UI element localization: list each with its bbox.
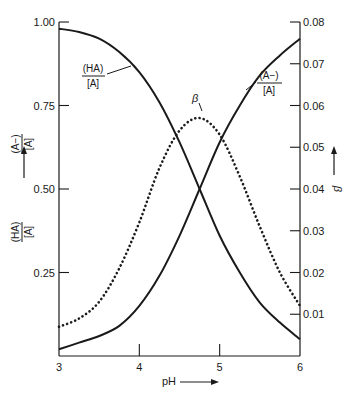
right-tick-label: 0.01 xyxy=(303,308,324,320)
right-tick-label: 0.02 xyxy=(303,267,324,279)
beta-curve xyxy=(59,118,300,327)
right-tick-label: 0.03 xyxy=(303,225,324,237)
right-axis-label: β xyxy=(331,146,344,193)
buffer-chart: 34561.000.750.500.250.080.070.060.050.04… xyxy=(0,0,348,398)
left-tick-label: 1.00 xyxy=(34,16,55,28)
svg-text:β: β xyxy=(332,185,344,193)
svg-text:(HA): (HA) xyxy=(83,63,104,74)
right-tick-label: 0.07 xyxy=(303,58,324,70)
svg-text:(HA): (HA) xyxy=(10,222,21,243)
tick-labels: 34561.000.750.500.250.080.070.060.050.04… xyxy=(34,16,325,373)
a-annotation: (A−) [A] xyxy=(246,70,282,96)
left-tick-label: 0.75 xyxy=(34,100,55,112)
x-tick-label: 3 xyxy=(56,361,62,373)
right-tick-label: 0.05 xyxy=(303,141,324,153)
right-tick-label: 0.04 xyxy=(303,183,324,195)
ha-annotation: (HA) [A] xyxy=(82,63,131,89)
right-tick-label: 0.06 xyxy=(303,100,324,112)
left-axis-label: (A−) [A] (HA) [A] xyxy=(10,134,34,242)
left-tick-label: 0.25 xyxy=(34,267,55,279)
x-tick-label: 4 xyxy=(136,361,142,373)
svg-text:[A]: [A] xyxy=(87,78,99,89)
x-tick-label: 5 xyxy=(217,361,223,373)
svg-text:β: β xyxy=(191,92,199,104)
x-axis-label: pH xyxy=(162,375,219,387)
x-tick-label: 6 xyxy=(297,361,303,373)
svg-text:pH: pH xyxy=(162,375,176,387)
svg-text:[A]: [A] xyxy=(263,85,275,96)
svg-text:(A−): (A−) xyxy=(259,70,278,81)
beta-leader-line xyxy=(199,103,202,111)
ha-leader-line xyxy=(107,66,131,74)
svg-text:[A]: [A] xyxy=(23,226,34,238)
svg-text:(A−): (A−) xyxy=(10,134,21,153)
left-tick-label: 0.50 xyxy=(34,183,55,195)
right-tick-label: 0.08 xyxy=(303,16,324,28)
beta-annotation: β xyxy=(191,92,202,111)
